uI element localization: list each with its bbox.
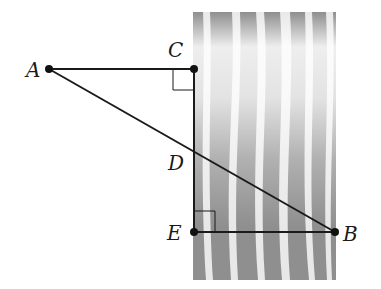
point-c: [190, 65, 198, 73]
right-angle-c: [173, 69, 194, 90]
label-d: D: [167, 151, 184, 175]
point-b: [331, 228, 339, 236]
river-diagram: A C D E B: [0, 0, 381, 289]
river: [193, 12, 336, 280]
label-a: A: [24, 58, 40, 82]
label-b: B: [342, 222, 358, 246]
label-e: E: [166, 221, 182, 245]
point-e: [190, 228, 198, 236]
point-a: [45, 65, 53, 73]
label-c: C: [168, 38, 183, 62]
